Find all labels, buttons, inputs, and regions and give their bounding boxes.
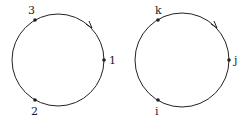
diagram-canvas: 3 1 2 k j i xyxy=(0,0,246,122)
label-1: 1 xyxy=(109,54,116,67)
arrow-icon xyxy=(211,21,217,28)
point-i xyxy=(156,98,160,102)
point-2 xyxy=(33,98,37,102)
label-i: i xyxy=(155,105,159,118)
point-k xyxy=(156,18,160,22)
label-j: j xyxy=(232,54,237,67)
point-j xyxy=(227,58,231,62)
point-3 xyxy=(33,18,37,22)
label-3: 3 xyxy=(28,4,35,17)
label-k: k xyxy=(155,4,162,17)
letter-cycle-diagram: k j i xyxy=(135,4,237,118)
cycle-circle xyxy=(12,14,104,106)
point-1 xyxy=(102,58,106,62)
numeric-cycle-diagram: 3 1 2 xyxy=(12,4,116,118)
label-2: 2 xyxy=(31,105,38,118)
arrow-icon xyxy=(86,21,92,28)
